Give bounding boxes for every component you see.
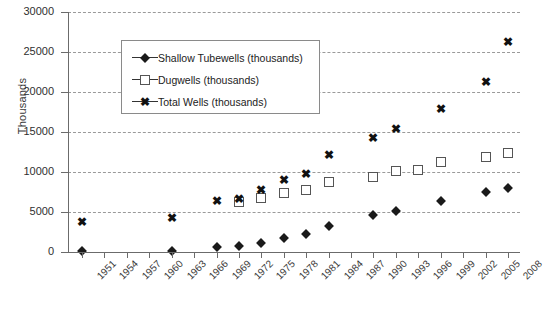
x-tick-label: 1999 [453,258,477,282]
x-tick-label: 1960 [162,258,186,282]
square-marker [301,185,311,195]
square-marker [481,152,491,162]
y-tick-label: 30000 [0,5,54,17]
diamond-marker [436,196,446,206]
x-tick [418,252,419,258]
x-tick [104,252,105,258]
cross-marker: ✖ [212,195,222,207]
x-tick [127,252,128,258]
x-tick-label: 1972 [251,258,275,282]
x-tick-label: 1963 [184,258,208,282]
y-tick [61,52,69,53]
x-tick-label: 2008 [521,258,544,282]
x-tick [486,252,487,258]
x-tick [217,252,218,258]
x-tick [149,252,150,258]
legend-item: ✖Total Wells (thousands) [132,92,267,112]
square-marker [391,166,401,176]
y-tick-label: 10000 [0,165,54,177]
cross-marker: ✖ [324,149,334,161]
cross-marker: ✖ [503,36,513,48]
x-tick [441,252,442,258]
cross-marker: ✖ [368,132,378,144]
cross-marker: ✖ [77,216,87,228]
square-marker [503,148,513,158]
y-tick-label: 25000 [0,45,54,57]
chart-legend: Shallow Tubewells (thousands)Dugwells (t… [121,40,320,114]
legend-item: Dugwells (thousands) [132,70,259,90]
diamond-marker [301,229,311,239]
legend-label: Shallow Tubewells (thousands) [158,52,303,64]
square-marker [413,165,423,175]
x-tick-label: 1957 [139,258,163,282]
diamond-marker [324,221,334,231]
x-tick-label: 1990 [386,258,410,282]
x-tick-label: 2002 [476,258,500,282]
legend-label: Dugwells (thousands) [158,74,259,86]
y-axis-title: Thousands [16,36,28,176]
x-tick [239,252,240,258]
y-tick [61,172,69,173]
x-tick-label: 2005 [498,258,522,282]
x-tick-label: 1987 [364,258,388,282]
legend-marker: ✖ [132,95,158,109]
x-axis-line [68,252,520,253]
x-tick-label: 1996 [431,258,455,282]
gridline [68,172,520,173]
x-tick [463,252,464,258]
x-tick [373,252,374,258]
x-tick-label: 1951 [95,258,119,282]
x-tick [508,252,509,258]
diamond-marker [140,53,150,63]
x-tick-label: 1984 [341,258,365,282]
cross-marker: ✖ [481,76,491,88]
square-marker [368,172,378,182]
diamond-marker [279,233,289,243]
x-tick [194,252,195,258]
cross-marker: ✖ [391,123,401,135]
gridline [68,132,520,133]
y-tick [61,132,69,133]
diamond-marker [391,206,401,216]
y-tick [61,92,69,93]
x-tick-label: 1954 [117,258,141,282]
y-tick [61,212,69,213]
diamond-marker [234,241,244,251]
x-tick [329,252,330,258]
x-tick [172,252,173,258]
x-tick [351,252,352,258]
legend-marker [132,73,158,87]
diamond-marker [212,242,222,252]
y-tick-label: 5000 [0,205,54,217]
y-tick-label: 15000 [0,125,54,137]
gridline [68,12,520,13]
x-tick-label: 1966 [207,258,231,282]
square-marker [324,177,334,187]
cross-marker: ✖ [436,103,446,115]
legend-label: Total Wells (thousands) [158,96,267,108]
y-tick [61,252,69,253]
x-tick [82,252,83,258]
cross-marker: ✖ [301,168,311,180]
x-tick-label: 1975 [274,258,298,282]
legend-item: Shallow Tubewells (thousands) [132,48,303,68]
x-tick [284,252,285,258]
cross-marker: ✖ [256,184,266,196]
y-tick [61,12,69,13]
diamond-marker [256,238,266,248]
cross-marker: ✖ [234,193,244,205]
square-marker [436,157,446,167]
x-tick [306,252,307,258]
x-tick-label: 1981 [319,258,343,282]
y-tick-label: 20000 [0,85,54,97]
y-tick-label: 0 [0,245,54,257]
cross-marker: ✖ [140,96,150,108]
square-marker [279,188,289,198]
x-tick-label: 1969 [229,258,253,282]
x-tick [396,252,397,258]
cross-marker: ✖ [279,174,289,186]
x-tick-label: 1993 [408,258,432,282]
x-tick-label: 1978 [296,258,320,282]
legend-marker [132,51,158,65]
